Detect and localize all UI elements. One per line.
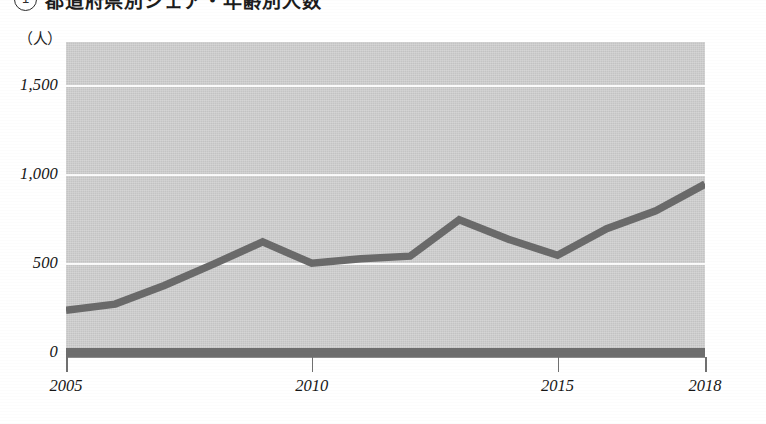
plot-area: [66, 42, 705, 353]
y-tick-label-1000: 1,000: [0, 164, 58, 184]
title-number-badge: 1: [14, 0, 37, 11]
y-tick-label-0: 0: [0, 342, 58, 362]
chart-title-text: 都道府県別シェア・年齢別人数: [45, 0, 322, 13]
chart-figure: 1 都道府県別シェア・年齢別人数 （人） 1,500 1,000 500 0 2…: [0, 0, 766, 424]
chart-title: 1 都道府県別シェア・年齢別人数: [14, 0, 322, 14]
x-tick-label-2010: 2010: [295, 376, 328, 396]
x-tick-label-2018: 2018: [689, 376, 722, 396]
x-tick-label-2005: 2005: [50, 376, 83, 396]
x-axis-baseline: [66, 357, 705, 358]
y-axis-unit-label: （人）: [18, 27, 62, 48]
series-line-chart: [66, 42, 705, 353]
x-axis-bar: [66, 348, 705, 357]
y-tick-label-500: 500: [0, 253, 58, 273]
x-tick-2010: [312, 357, 314, 372]
x-tick-2018: [705, 357, 707, 372]
x-tick-2015: [558, 357, 560, 372]
series-line-path: [66, 184, 705, 310]
x-tick-label-2015: 2015: [541, 376, 574, 396]
x-tick-2005: [66, 357, 68, 372]
y-tick-label-1500: 1,500: [0, 75, 58, 95]
